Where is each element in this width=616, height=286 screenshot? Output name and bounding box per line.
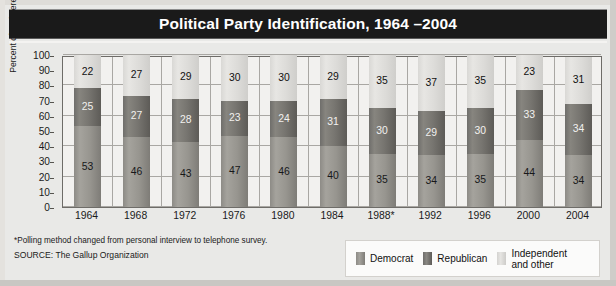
y-axis-tick-mark — [50, 102, 54, 103]
y-axis-tick-label: 10 — [24, 188, 50, 198]
x-axis-tick-label: 1984 — [305, 211, 359, 221]
bar-stack: 233344 — [516, 55, 543, 207]
bar-stack: 272746 — [123, 55, 150, 207]
bar-segment-republican: 28 — [172, 99, 199, 142]
bar-value-label: 35 — [474, 175, 486, 185]
vertical-gridline — [505, 57, 506, 207]
bar-value-label: 34 — [425, 176, 437, 186]
y-axis-tick-label: 80 — [24, 81, 50, 91]
frame-edge-bottom — [0, 280, 616, 286]
vertical-gridline — [308, 57, 309, 207]
bar-segment-democrat: 44 — [516, 140, 543, 207]
bar-value-label: 30 — [474, 126, 486, 136]
bar-value-label: 35 — [376, 76, 388, 86]
bar-value-label: 22 — [82, 67, 94, 77]
bar-segment-independent: 35 — [467, 55, 494, 108]
x-axis-tick-label: 1972 — [158, 211, 212, 221]
legend-swatch-independent — [497, 252, 506, 265]
y-axis-tick-mark — [50, 208, 54, 209]
chart-figure: Political Party Identification, 1964 –20… — [0, 0, 616, 286]
bar-stack: 222553 — [74, 55, 101, 207]
y-axis-tick-mark — [50, 86, 54, 87]
bar-value-label: 29 — [180, 72, 192, 82]
bar-stack: 302446 — [270, 55, 297, 207]
y-axis-tick-label: 40 — [24, 142, 50, 152]
y-axis-tick-mark — [50, 71, 54, 72]
y-axis-tick-mark — [50, 56, 54, 57]
y-axis-tick-mark — [50, 193, 54, 194]
legend-item: Independent and other — [497, 248, 567, 270]
y-axis-tick-mark — [50, 147, 54, 148]
bar-segment-republican: 34 — [565, 104, 592, 156]
y-axis-tick-label: 30 — [24, 157, 50, 167]
bar-segment-republican: 30 — [467, 108, 494, 154]
chart-title: Political Party Identification, 1964 –20… — [159, 15, 457, 33]
bar-segment-independent: 30 — [270, 55, 297, 101]
bar-segment-republican: 27 — [123, 96, 150, 137]
bar-segment-republican: 30 — [369, 108, 396, 154]
bar-value-label: 44 — [524, 168, 536, 178]
vertical-gridline — [456, 57, 457, 207]
legend-label: Democrat — [370, 253, 413, 264]
title-underline — [9, 41, 607, 43]
bar-value-label: 30 — [376, 126, 388, 136]
bar-segment-democrat: 47 — [221, 136, 248, 207]
bar-value-label: 23 — [229, 113, 241, 123]
frame-edge-top — [0, 0, 616, 5]
legend-swatch-republican — [423, 252, 432, 265]
bar-stack: 293140 — [320, 55, 347, 207]
bar-segment-democrat: 53 — [74, 126, 101, 207]
bar-value-label: 28 — [180, 115, 192, 125]
bar-segment-republican: 25 — [74, 88, 101, 126]
bar-segment-democrat: 35 — [369, 154, 396, 207]
bar-value-label: 34 — [573, 124, 585, 134]
chart-legend: DemocratRepublicanIndependent and other — [345, 240, 600, 277]
x-axis-tick-label: 1968 — [109, 211, 163, 221]
footnote-text: *Polling method changed from personal in… — [14, 236, 267, 245]
bar-segment-independent: 31 — [565, 57, 592, 104]
y-axis-tick-label: 0 — [24, 203, 50, 213]
bar-segment-democrat: 43 — [172, 142, 199, 207]
bar-value-label: 29 — [425, 128, 437, 138]
bar-value-label: 46 — [131, 167, 143, 177]
x-axis-tick-label: 1976 — [207, 211, 261, 221]
x-axis-tick-label: 1996 — [452, 211, 506, 221]
bar-segment-democrat: 46 — [270, 137, 297, 207]
bar-value-label: 25 — [82, 102, 94, 112]
vertical-gridline — [554, 57, 555, 207]
bar-value-label: 27 — [131, 111, 143, 121]
bar-segment-democrat: 35 — [467, 154, 494, 207]
bar-segment-republican: 33 — [516, 90, 543, 140]
source-text: SOURCE: The Gallup Organization — [14, 250, 149, 260]
vertical-gridline — [358, 57, 359, 207]
y-axis-tick-label: 20 — [24, 172, 50, 182]
vertical-gridline — [112, 57, 113, 207]
bar-stack: 292843 — [172, 55, 199, 207]
y-axis-tick-mark — [50, 178, 54, 179]
bar-value-label: 33 — [524, 110, 536, 120]
bar-value-label: 31 — [327, 117, 339, 127]
y-axis-tick-mark — [50, 132, 54, 133]
plot-area: Percent of registered voters 22255327274… — [12, 50, 604, 230]
bar-stack: 313434 — [565, 57, 592, 207]
y-axis-tick-label: 60 — [24, 112, 50, 122]
bar-stack: 353035 — [369, 55, 396, 207]
x-axis-tick-label: 1980 — [256, 211, 310, 221]
bar-value-label: 31 — [573, 75, 585, 85]
legend-item: Republican — [423, 252, 487, 265]
bar-stack: 353035 — [467, 55, 494, 207]
frame-edge-right — [610, 0, 616, 286]
bar-segment-independent: 30 — [221, 55, 248, 101]
y-axis-label: Percent of registered voters — [8, 0, 22, 80]
vertical-gridline — [407, 57, 408, 207]
bar-segment-democrat: 40 — [320, 146, 347, 207]
bar-value-label: 30 — [278, 73, 290, 83]
bar-stack: 302347 — [221, 55, 248, 207]
bar-segment-democrat: 46 — [123, 137, 150, 207]
frame-edge-left — [0, 0, 5, 286]
y-axis-tick-label: 70 — [24, 96, 50, 106]
x-axis-tick-label: 1992 — [403, 211, 457, 221]
bar-value-label: 35 — [376, 175, 388, 185]
y-axis-tick-label: 90 — [24, 66, 50, 76]
x-axis-tick-label: 2000 — [501, 211, 555, 221]
